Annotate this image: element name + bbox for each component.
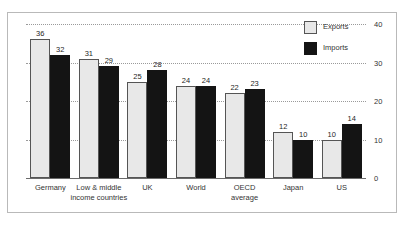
bar-group: 2528 bbox=[127, 24, 167, 178]
legend-label-exports: Exports bbox=[323, 22, 348, 31]
legend-label-imports: Imports bbox=[323, 43, 348, 52]
bar-group: 2424 bbox=[176, 24, 216, 178]
bar-value-label: 23 bbox=[250, 79, 258, 88]
bar-imports: 14 bbox=[342, 124, 362, 178]
bar-value-label: 31 bbox=[85, 49, 93, 58]
bar-imports: 23 bbox=[245, 89, 265, 178]
bar-value-label: 36 bbox=[36, 29, 44, 38]
y-axis-tick-0: 0 bbox=[374, 174, 396, 183]
y-axis-tick-20: 20 bbox=[374, 97, 396, 106]
y-axis-tick-10: 10 bbox=[374, 135, 396, 144]
bar-exports: 31 bbox=[79, 59, 99, 178]
category-label-line: US bbox=[299, 183, 385, 193]
bar-exports: 22 bbox=[225, 93, 245, 178]
y-axis-tick-40: 40 bbox=[374, 20, 396, 29]
bar-value-label: 10 bbox=[328, 130, 336, 139]
category-label-line: average bbox=[202, 193, 288, 203]
bar-imports: 28 bbox=[147, 70, 167, 178]
bar-group: 3129 bbox=[79, 24, 119, 178]
bar-exports: 24 bbox=[176, 86, 196, 178]
gridline-0 bbox=[26, 178, 366, 179]
bar-imports: 29 bbox=[99, 66, 119, 178]
bar-exports: 12 bbox=[273, 132, 293, 178]
bar-value-label: 28 bbox=[153, 60, 161, 69]
bar-exports: 25 bbox=[127, 82, 147, 178]
bar-value-label: 24 bbox=[182, 76, 190, 85]
category-label-line: income countries bbox=[56, 193, 142, 203]
bar-imports: 32 bbox=[50, 55, 70, 178]
bar-group: 2223 bbox=[225, 24, 265, 178]
y-axis-tick-30: 30 bbox=[374, 58, 396, 67]
bar-exports: 10 bbox=[322, 140, 342, 179]
bar-value-label: 12 bbox=[279, 122, 287, 131]
chart-figure: 3632312925282424222312101014 Exports Imp… bbox=[7, 12, 397, 213]
bar-value-label: 10 bbox=[299, 130, 307, 139]
bar-value-label: 29 bbox=[105, 56, 113, 65]
bar-value-label: 14 bbox=[348, 114, 356, 123]
category-label: US bbox=[299, 183, 385, 193]
bar-value-label: 25 bbox=[133, 72, 141, 81]
legend-swatch-imports bbox=[304, 42, 317, 55]
bar-group: 3632 bbox=[30, 24, 70, 178]
bar-value-label: 22 bbox=[230, 83, 238, 92]
bar-value-label: 24 bbox=[202, 76, 210, 85]
bar-exports: 36 bbox=[30, 39, 50, 178]
bar-value-label: 32 bbox=[56, 45, 64, 54]
legend-swatch-exports bbox=[304, 21, 317, 34]
bar-imports: 24 bbox=[196, 86, 216, 178]
bar-imports: 10 bbox=[293, 140, 313, 179]
